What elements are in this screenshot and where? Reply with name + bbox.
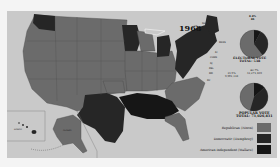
popular-wallace-label: 13.5%9,901,118: [225, 72, 238, 78]
label-md: MD: [209, 72, 213, 75]
legend-american-independent: American Independent (Wallace): [200, 145, 271, 154]
electoral-vote-heading: ELECTORAL VOTETOTAL: 538: [233, 57, 266, 63]
legend-swatch: [257, 123, 271, 132]
label-nh: NH: [202, 22, 206, 25]
popular-vote-pie: [240, 83, 268, 111]
legend-label: Democratic (Humphrey): [214, 137, 253, 141]
electoral-vote-pie: [240, 30, 268, 58]
state-minnesota: [122, 25, 141, 51]
state-florida: [165, 113, 189, 141]
label-del: DEL: [209, 67, 214, 70]
state-oklahoma: [103, 81, 125, 93]
popular-vote-heading: POPULAR VOTETOTAL: 73,026,831: [236, 112, 273, 118]
electoral-wallace-label: 8.4%46: [249, 15, 256, 21]
label-conn: CONN: [210, 56, 217, 59]
legend-label: American Independent (Wallace): [200, 148, 253, 152]
label-dc: DC: [207, 79, 211, 82]
label-nj: NJ: [210, 62, 213, 65]
map-panel: HAWAII ALASKA 1968 8.4%46 ELECTORAL VOTE…: [7, 11, 277, 158]
legend-swatch: [257, 145, 271, 154]
label-vt: VT: [194, 25, 197, 28]
state-michigan: [157, 35, 171, 57]
legend-republican: Republican (Nixon): [222, 123, 271, 132]
legend-label: Republican (Nixon): [222, 126, 253, 130]
inset-divider: [7, 111, 45, 141]
alaska-aleutians: [31, 145, 63, 150]
alaska-label: ALASKA: [63, 129, 72, 132]
map-title: 1968: [179, 23, 201, 33]
label-mass: MASS: [219, 41, 226, 44]
label-ri: RI: [215, 51, 217, 54]
popular-humphrey-label: 42.7%31,271,839: [247, 69, 262, 75]
legend-democratic: Democratic (Humphrey): [214, 134, 271, 143]
legend-swatch: [257, 134, 271, 143]
state-texas: [77, 93, 125, 143]
hawaii-label: HAWAII: [14, 128, 22, 131]
